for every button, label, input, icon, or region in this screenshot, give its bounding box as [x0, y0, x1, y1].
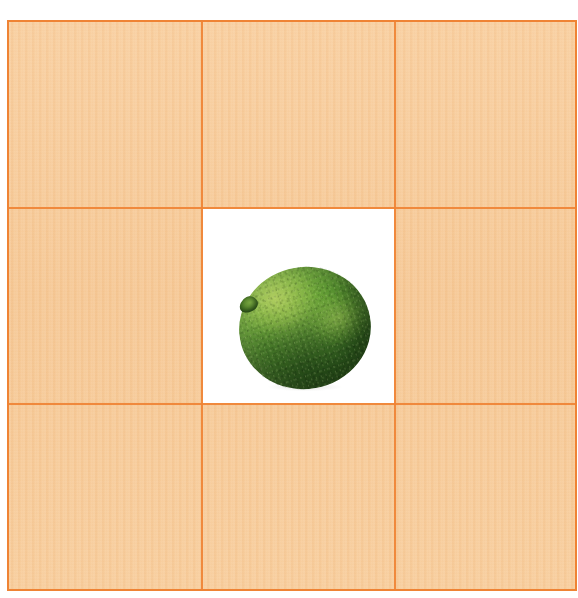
cell-bottom-center — [203, 405, 394, 589]
grid-line-horizontal-1 — [9, 207, 575, 209]
cell-bottom-left — [9, 405, 201, 589]
lime-image — [239, 267, 371, 389]
cell-bottom-right — [396, 405, 575, 589]
cell-middle-left — [9, 209, 201, 403]
cell-top-center — [203, 22, 394, 207]
image-canvas — [0, 0, 578, 598]
grid-line-horizontal-2 — [9, 403, 575, 405]
three-by-three-grid — [7, 20, 577, 591]
lime-body — [230, 257, 379, 398]
grid-line-vertical-2 — [394, 22, 396, 589]
cell-top-left — [9, 22, 201, 207]
cell-middle-right — [396, 209, 575, 403]
cell-middle-center — [203, 209, 394, 403]
grid-line-vertical-1 — [201, 22, 203, 589]
lime-peel-texture — [223, 250, 386, 407]
cell-top-right — [396, 22, 575, 207]
lime-peel-speckle — [223, 250, 386, 407]
